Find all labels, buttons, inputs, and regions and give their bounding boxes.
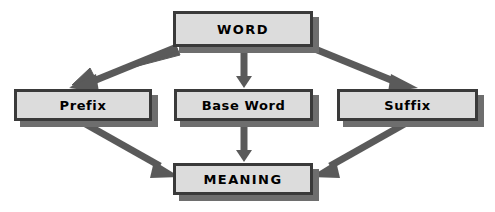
arrow-prefix-to-meaning xyxy=(82,122,180,178)
arrow-word-to-base-word xyxy=(236,47,252,88)
arrow-suffix-to-meaning xyxy=(310,122,408,178)
node-word-label: WORD xyxy=(217,23,269,36)
node-prefix[interactable]: Prefix xyxy=(14,89,152,121)
node-meaning-box[interactable]: MEANING xyxy=(173,163,313,195)
arrow-base-word-to-meaning xyxy=(236,121,252,162)
node-prefix-box[interactable]: Prefix xyxy=(14,89,152,121)
node-suffix-label: Suffix xyxy=(384,99,430,112)
node-base-word[interactable]: Base Word xyxy=(174,89,313,121)
node-meaning-label: MEANING xyxy=(204,173,283,186)
node-word[interactable]: WORD xyxy=(173,11,313,47)
arrow-word-to-prefix xyxy=(69,46,180,92)
node-word-box[interactable]: WORD xyxy=(173,11,313,47)
arrow-word-to-suffix xyxy=(310,47,418,92)
node-base-word-label: Base Word xyxy=(202,99,286,112)
node-base-word-box[interactable]: Base Word xyxy=(174,89,313,121)
node-prefix-label: Prefix xyxy=(60,99,107,112)
node-suffix-box[interactable]: Suffix xyxy=(337,89,478,121)
node-meaning[interactable]: MEANING xyxy=(173,163,313,195)
node-suffix[interactable]: Suffix xyxy=(337,89,478,121)
word-structure-diagram: WORD Prefix Base Word Suffix MEANING xyxy=(0,0,495,212)
